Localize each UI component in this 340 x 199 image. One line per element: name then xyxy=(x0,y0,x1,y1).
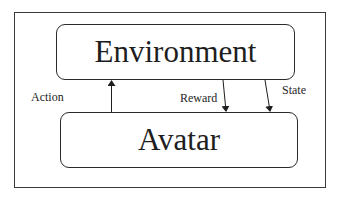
action-edge-label: Action xyxy=(31,91,64,103)
state-arrow xyxy=(265,80,270,111)
state-edge-label: State xyxy=(282,84,306,96)
reward-arrow xyxy=(223,80,226,111)
reward-edge-label: Reward xyxy=(180,92,217,104)
